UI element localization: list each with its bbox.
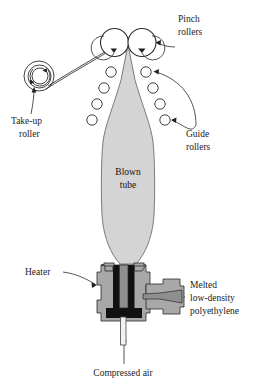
blown-film-extrusion-diagram: Pinch rollers Take-up roller Guide rolle… <box>0 0 262 388</box>
compressed-air-tube <box>121 317 127 345</box>
guide-rollers-line1: Guide <box>186 129 209 139</box>
take-up-roller-line2: roller <box>19 129 40 139</box>
label-guide-rollers: Guide rollers <box>186 129 211 152</box>
label-compressed-air: Compressed air <box>93 368 153 378</box>
compressed-air-line1: Compressed air <box>93 368 153 378</box>
take-up-roller[interactable] <box>24 61 54 91</box>
figure-canvas: Pinch rollers Take-up roller Guide rolle… <box>0 0 262 388</box>
pinch-rollers-line1: Pinch <box>178 14 200 24</box>
leader-pinch-rollers <box>156 40 176 47</box>
melted-polyethylene-line1: Melted <box>190 280 217 290</box>
blown-tube-line1: Blown <box>115 167 141 177</box>
label-melted-polyethylene: Melted low-density polyethylene <box>190 280 239 316</box>
pinch-roller-left[interactable] <box>91 29 128 60</box>
label-heater: Heater <box>25 267 51 277</box>
leader-heater <box>63 272 97 288</box>
label-take-up-roller: Take-up roller <box>11 116 42 139</box>
die-assembly <box>97 263 184 321</box>
take-up-roller-line1: Take-up <box>11 116 42 126</box>
pinch-rollers-line2: rollers <box>178 27 203 37</box>
leader-take-up-roller <box>31 87 37 114</box>
melted-polyethylene-line3: polyethylene <box>190 306 239 316</box>
guide-rollers-line2: rollers <box>186 142 211 152</box>
heater-line1: Heater <box>25 267 51 277</box>
blown-tube-shape <box>101 47 154 264</box>
label-pinch-rollers: Pinch rollers <box>178 14 203 37</box>
blown-tube-line2: tube <box>120 180 136 190</box>
melted-polyethylene-line2: low-density <box>190 293 235 303</box>
